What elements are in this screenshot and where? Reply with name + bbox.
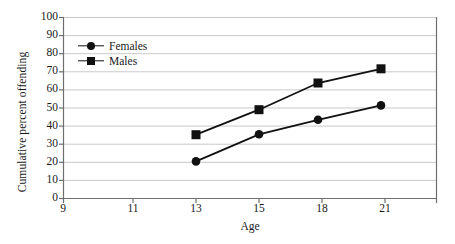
data-point-females-18 [314,116,323,125]
data-point-males-15 [255,105,264,114]
legend-label-females: Females [109,40,147,52]
data-point-females-15 [255,130,264,139]
data-point-males-18 [314,79,323,88]
legend-item-males: Males [78,53,147,68]
y-tick-marks [59,18,64,199]
legend-label-males: Males [109,55,137,67]
series-females [192,101,386,166]
legend: Females Males [78,38,147,68]
legend-item-females: Females [78,38,147,53]
data-point-females-21 [377,101,386,110]
chart-container: Cumulative percent offending 0 10 20 30 … [0,0,455,244]
data-point-males-13 [192,130,201,139]
circle-marker-icon [87,42,95,50]
x-tick-marks [64,199,437,204]
data-point-males-21 [377,64,386,73]
legend-line-males [78,55,104,67]
square-marker-icon [87,57,95,65]
plot-area [0,0,455,244]
legend-line-females [78,40,104,52]
data-point-females-13 [192,157,201,166]
